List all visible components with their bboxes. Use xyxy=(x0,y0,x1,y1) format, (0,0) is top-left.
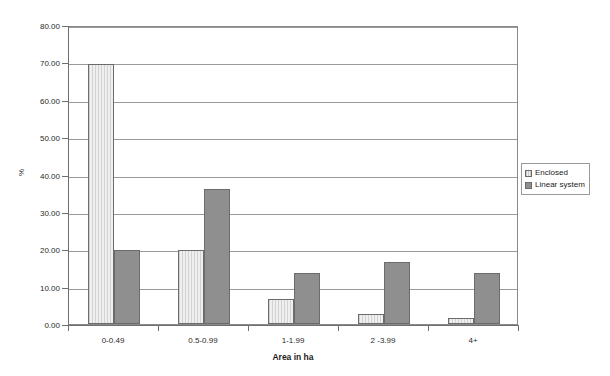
y-axis-tick xyxy=(62,213,69,214)
bar xyxy=(204,189,230,324)
x-axis-line xyxy=(68,325,519,326)
bar xyxy=(88,64,114,324)
bar-chart: 0.0010.0020.0030.0040.0050.0060.0070.008… xyxy=(0,0,610,376)
legend-item-enclosed[interactable]: Enclosed xyxy=(525,167,585,179)
bar xyxy=(114,250,140,324)
y-axis-tick-label: 30.00 xyxy=(6,209,60,218)
x-axis-tick xyxy=(158,326,159,331)
legend-item-linear-system[interactable]: Linear system xyxy=(525,179,585,191)
y-axis-tick-label: 60.00 xyxy=(6,97,60,106)
y-axis-tick xyxy=(62,288,69,289)
x-axis-tick-label: 0-0.49 xyxy=(68,336,158,346)
x-axis-tick xyxy=(248,326,249,331)
x-axis-tick xyxy=(428,326,429,331)
legend-swatch-icon xyxy=(525,170,532,177)
bar xyxy=(474,273,500,324)
y-axis-tick xyxy=(62,101,69,102)
y-axis-tick xyxy=(62,325,69,326)
y-axis-tick xyxy=(62,63,69,64)
gridline xyxy=(69,102,517,103)
y-axis-tick xyxy=(62,176,69,177)
x-axis-tick xyxy=(518,326,519,331)
bar xyxy=(358,314,384,324)
legend-item-label: Enclosed xyxy=(535,168,568,178)
y-axis-tick xyxy=(62,250,69,251)
x-axis-tick-label: 0.5-0.99 xyxy=(158,336,248,346)
gridline xyxy=(69,214,517,215)
x-axis-title: Area in ha xyxy=(0,352,586,362)
gridline xyxy=(69,27,517,28)
legend-swatch-icon xyxy=(525,182,532,189)
x-axis-tick-label: 4+ xyxy=(428,336,518,346)
y-axis-tick xyxy=(62,138,69,139)
y-axis-tick xyxy=(62,26,69,27)
y-axis-tick-label: 10.00 xyxy=(6,284,60,293)
bar xyxy=(178,250,204,324)
bar xyxy=(294,273,320,324)
y-axis-tick-label: 40.00 xyxy=(6,172,60,181)
y-axis-tick-label: 80.00 xyxy=(6,22,60,31)
x-axis-tick-label: 1-1.99 xyxy=(248,336,338,346)
plot-area xyxy=(68,26,518,325)
chart-legend[interactable]: Enclosed Linear system xyxy=(521,163,590,195)
x-axis-tick xyxy=(68,326,69,331)
y-axis-tick-label: 50.00 xyxy=(6,134,60,143)
gridline xyxy=(69,177,517,178)
y-axis-tick-labels: 0.0010.0020.0030.0040.0050.0060.0070.008… xyxy=(0,0,60,376)
x-axis-tick xyxy=(338,326,339,331)
x-axis-tick-label: 2 -3.99 xyxy=(338,336,428,346)
bar xyxy=(448,318,474,324)
bar xyxy=(268,299,294,324)
gridline xyxy=(69,64,517,65)
y-axis-tick-label: 0.00 xyxy=(6,321,60,330)
y-axis-tick-label: 70.00 xyxy=(6,59,60,68)
legend-item-label: Linear system xyxy=(535,180,585,190)
y-axis-tick-label: 20.00 xyxy=(6,246,60,255)
y-axis-title: % xyxy=(17,169,26,176)
bar xyxy=(384,262,410,324)
gridline xyxy=(69,139,517,140)
